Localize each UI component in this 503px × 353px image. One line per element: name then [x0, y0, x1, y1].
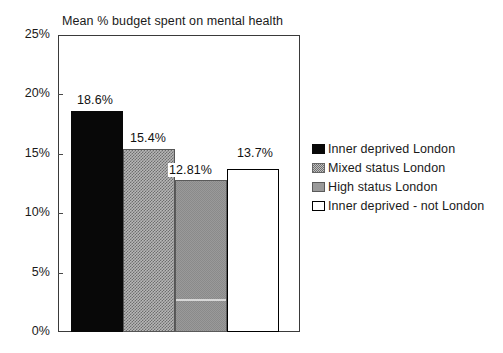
data-label-bar-2: 15.4% — [129, 131, 167, 145]
bar-pattern-streak — [176, 299, 226, 301]
white-outline-swatch — [312, 201, 325, 211]
bar-chart: Mean % budget spent on mental health 25%… — [0, 0, 503, 353]
y-tick-label: 10% — [4, 205, 50, 219]
chart-title: Mean % budget spent on mental health — [62, 14, 283, 28]
y-tick-label: 20% — [4, 86, 50, 100]
legend-item-label: Inner deprived London — [328, 142, 455, 156]
chart-legend: Inner deprived LondonMixed status London… — [312, 140, 484, 216]
data-label-bar-1: 18.6% — [76, 93, 114, 107]
legend-item-label: Inner deprived - not London — [328, 199, 484, 213]
bar-1 — [71, 111, 123, 332]
data-label-bar-4: 13.7% — [236, 146, 274, 160]
legend-item-4: Inner deprived - not London — [312, 197, 484, 215]
solid-black-swatch — [312, 144, 325, 154]
y-tick-label: 25% — [4, 27, 50, 41]
legend-item-3: High status London — [312, 178, 484, 196]
bar-4 — [227, 169, 279, 332]
legend-item-2: Mixed status London — [312, 159, 484, 177]
y-tick-label: 0% — [4, 324, 50, 338]
y-tick-label: 5% — [4, 265, 50, 279]
data-label-bar-3: 12.81% — [168, 163, 213, 177]
gray-swatch — [312, 182, 325, 192]
legend-item-label: Mixed status London — [328, 161, 445, 175]
legend-item-1: Inner deprived London — [312, 140, 484, 158]
checker-dotted-swatch — [312, 163, 325, 173]
y-tick-label: 15% — [4, 146, 50, 160]
legend-item-label: High status London — [328, 180, 438, 194]
bars-container — [58, 35, 300, 332]
bar-3 — [175, 180, 227, 332]
